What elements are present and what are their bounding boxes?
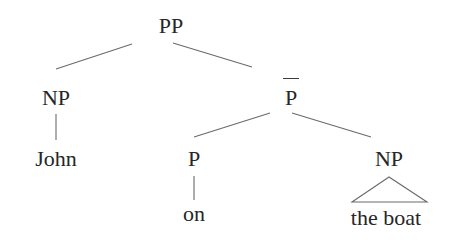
leaf-the-boat: the boat	[351, 207, 421, 229]
edge-pp-np	[56, 44, 132, 69]
pbar-overline	[283, 78, 299, 79]
edge-pp-pbar	[173, 43, 252, 67]
syntax-tree-diagram: PP NP P John P NP on the boat	[0, 0, 450, 242]
node-np-subject: NP	[42, 87, 70, 109]
edge-pbar-p	[194, 113, 270, 137]
node-np-object: NP	[375, 148, 403, 170]
edge-pbar-np	[292, 113, 371, 137]
leaf-on: on	[183, 203, 205, 225]
node-pp: PP	[159, 15, 183, 37]
leaf-john: John	[35, 148, 77, 170]
triangle-np-the-boat	[352, 177, 427, 202]
node-p: P	[188, 148, 200, 170]
node-p-bar: P	[285, 87, 297, 109]
